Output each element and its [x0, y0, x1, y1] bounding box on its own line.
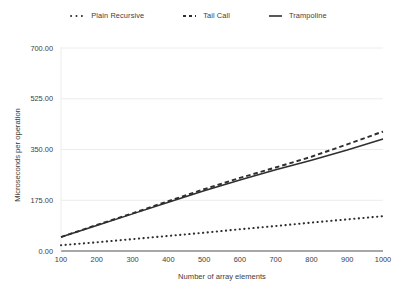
- chart-plot: 0.00175.00350.00525.00700.00 10020030040…: [0, 0, 397, 288]
- series-line-trampoline: [61, 139, 383, 237]
- x-tick-label: 900: [341, 255, 353, 264]
- x-tick-label: 400: [162, 255, 174, 264]
- x-tick-label: 200: [91, 255, 103, 264]
- y-tick-label: 175.00: [30, 196, 53, 205]
- x-axis-title: Number of array elements: [178, 272, 266, 281]
- y-axis-tick-labels: 0.00175.00350.00525.00700.00: [30, 44, 53, 256]
- data-series: [61, 132, 383, 246]
- x-tick-label: 700: [269, 255, 281, 264]
- y-tick-label: 700.00: [30, 44, 53, 53]
- x-tick-label: 300: [126, 255, 138, 264]
- y-tick-label: 350.00: [30, 145, 53, 154]
- x-tick-label: 100: [55, 255, 67, 264]
- x-tick-label: 1000: [375, 255, 391, 264]
- series-line-plain-recursive: [61, 216, 383, 245]
- y-axis-title: Microseconds per operation: [13, 108, 22, 202]
- y-tick-label: 0.00: [39, 247, 53, 256]
- gridlines: [61, 48, 383, 200]
- y-tick-label: 525.00: [30, 94, 53, 103]
- x-tick-label: 500: [198, 255, 210, 264]
- x-tick-label: 600: [234, 255, 246, 264]
- chart-container: Plain Recursive Tail Call Trampoline 0.0…: [0, 0, 397, 288]
- x-tick-label: 800: [305, 255, 317, 264]
- x-axis-tick-labels: 1002003004005006007008009001000: [55, 255, 391, 264]
